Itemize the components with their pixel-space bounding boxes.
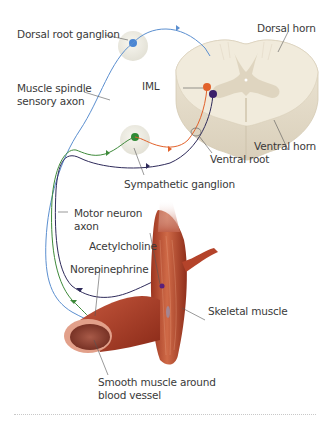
label-sympathetic-ganglion: Sympathetic ganglion — [124, 178, 235, 191]
skeletal-muscle — [151, 200, 218, 365]
blood-vessel — [64, 296, 160, 353]
label-dorsal-root-ganglion: Dorsal root ganglion — [17, 28, 120, 41]
label-iml: IML — [142, 80, 159, 93]
motor-neuron-dot — [209, 90, 217, 98]
diagram-canvas — [0, 0, 330, 424]
iml-neuron-dot — [203, 83, 211, 91]
label-norepinephrine: Norepinephrine — [70, 263, 148, 276]
label-skeletal-muscle: Skeletal muscle — [208, 305, 288, 318]
label-motor-neuron-axon: Motor neuron axon — [74, 207, 142, 233]
label-muscle-spindle-sensory-axon: Muscle spindle sensory axon — [17, 82, 92, 108]
label-smooth-muscle: Smooth muscle around blood vessel — [98, 376, 216, 402]
label-dorsal-horn: Dorsal horn — [257, 22, 316, 35]
label-acetylcholine: Acetylcholine — [89, 240, 157, 253]
label-ventral-horn: Ventral horn — [254, 140, 316, 153]
label-ventral-root: Ventral root — [210, 153, 269, 166]
footer-divider — [14, 414, 316, 415]
neuromuscular-junction — [160, 284, 165, 289]
dorsal-root-ganglion — [118, 31, 148, 61]
